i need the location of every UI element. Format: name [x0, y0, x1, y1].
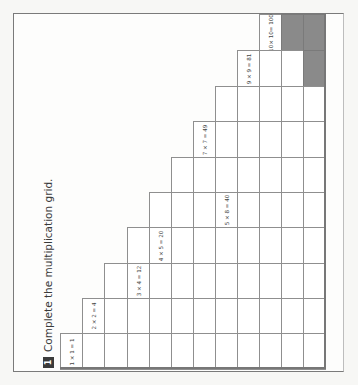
grid-cell[interactable]	[149, 333, 172, 370]
grid-cell[interactable]	[237, 157, 260, 193]
grid-cell-shaded	[281, 14, 304, 51]
grid-cell[interactable]	[215, 333, 238, 370]
grid-cell[interactable]	[215, 157, 238, 193]
grid-cell[interactable]	[193, 333, 216, 370]
grid-cell[interactable]	[215, 121, 238, 158]
grid-cell[interactable]	[259, 227, 282, 264]
grid-cell[interactable]	[281, 298, 304, 334]
grid-cell[interactable]	[127, 298, 150, 334]
grid-cell[interactable]	[171, 298, 194, 334]
grid-cell[interactable]: 4 × 5 = 20	[149, 227, 172, 264]
grid-cell[interactable]	[259, 263, 282, 299]
grid-cell[interactable]	[259, 333, 282, 370]
grid-cell[interactable]	[193, 298, 216, 334]
grid-cell[interactable]	[303, 227, 326, 264]
grid-cell[interactable]	[281, 227, 304, 264]
grid-cell[interactable]	[215, 298, 238, 334]
grid-cell[interactable]	[237, 121, 260, 158]
grid-cell[interactable]	[171, 227, 194, 264]
grid-cell[interactable]	[104, 333, 128, 370]
grid-cell[interactable]: 9 × 9 = 81	[237, 50, 260, 87]
grid-cell[interactable]	[281, 263, 304, 299]
grid-cell[interactable]	[281, 157, 304, 193]
grid-cell[interactable]	[237, 298, 260, 334]
grid-cell[interactable]: 7 × 7 = 49	[193, 121, 216, 158]
cell-example-label: 3 × 4 = 12	[136, 266, 142, 297]
cell-example-label: 5 × 8 = 40	[224, 195, 230, 226]
grid-cell[interactable]	[281, 86, 304, 122]
grid-cell[interactable]	[259, 192, 282, 228]
grid-cell[interactable]	[303, 157, 326, 193]
cell-example-label: 2 × 2 = 4	[91, 302, 97, 329]
grid-cell[interactable]	[237, 333, 260, 370]
grid-cell[interactable]: 2 × 2 = 4	[82, 298, 105, 334]
grid-cell[interactable]: 10× 10= 100	[259, 14, 282, 51]
grid-cell[interactable]	[259, 50, 282, 87]
grid-cell[interactable]	[303, 333, 326, 370]
grid-cell[interactable]	[127, 333, 150, 370]
grid-cell[interactable]: 1 × 1 = 1	[60, 333, 83, 370]
grid-cell[interactable]	[237, 192, 260, 228]
grid-cell-shaded	[303, 50, 326, 87]
cell-example-label: 9 × 9 = 81	[246, 53, 252, 84]
multiplication-grid: 1 × 1 = 12 × 2 = 43 × 4 = 124 × 5 = 207 …	[0, 0, 358, 385]
grid-cell[interactable]	[281, 50, 304, 87]
cell-example-label: 4 × 5 = 20	[158, 230, 164, 261]
grid-cell[interactable]	[259, 121, 282, 158]
cell-example-label: 1 × 1 = 1	[69, 338, 75, 365]
grid-cell[interactable]	[303, 121, 326, 158]
grid-cell[interactable]	[127, 227, 150, 264]
grid-cell[interactable]	[215, 263, 238, 299]
grid-cell[interactable]	[104, 263, 128, 299]
grid-cell[interactable]	[149, 298, 172, 334]
grid-cell-shaded	[303, 14, 326, 51]
grid-cell[interactable]	[215, 86, 238, 122]
grid-cell[interactable]	[303, 86, 326, 122]
grid-cell[interactable]	[171, 157, 194, 193]
cell-example-label: 10× 10= 100	[268, 14, 274, 52]
grid-cell[interactable]	[259, 298, 282, 334]
grid-cell[interactable]	[149, 192, 172, 228]
grid-cell[interactable]	[237, 263, 260, 299]
grid-cell[interactable]: 3 × 4 = 12	[127, 263, 150, 299]
grid-cell[interactable]	[281, 121, 304, 158]
grid-cell[interactable]	[281, 192, 304, 228]
grid-cell[interactable]: 5 × 8 = 40	[215, 192, 238, 228]
grid-cell[interactable]	[303, 263, 326, 299]
grid-cell[interactable]	[171, 192, 194, 228]
grid-cell[interactable]	[303, 298, 326, 334]
grid-cell[interactable]	[193, 192, 216, 228]
grid-cell[interactable]	[193, 227, 216, 264]
grid-cell[interactable]	[215, 227, 238, 264]
grid-cell[interactable]	[193, 157, 216, 193]
grid-cell[interactable]	[149, 263, 172, 299]
grid-bottom-border	[60, 367, 326, 369]
grid-cell[interactable]	[259, 157, 282, 193]
grid-cell[interactable]	[171, 263, 194, 299]
grid-cell[interactable]	[104, 298, 128, 334]
grid-cell[interactable]	[171, 333, 194, 370]
grid-cell[interactable]	[237, 86, 260, 122]
grid-cell[interactable]	[259, 86, 282, 122]
grid-cell[interactable]	[303, 192, 326, 228]
grid-cell[interactable]	[82, 333, 105, 370]
grid-cell[interactable]	[193, 263, 216, 299]
grid-cell[interactable]	[237, 227, 260, 264]
grid-cell[interactable]	[281, 333, 304, 370]
cell-example-label: 7 × 7 = 49	[202, 124, 208, 155]
grid-right-border	[324, 14, 326, 369]
